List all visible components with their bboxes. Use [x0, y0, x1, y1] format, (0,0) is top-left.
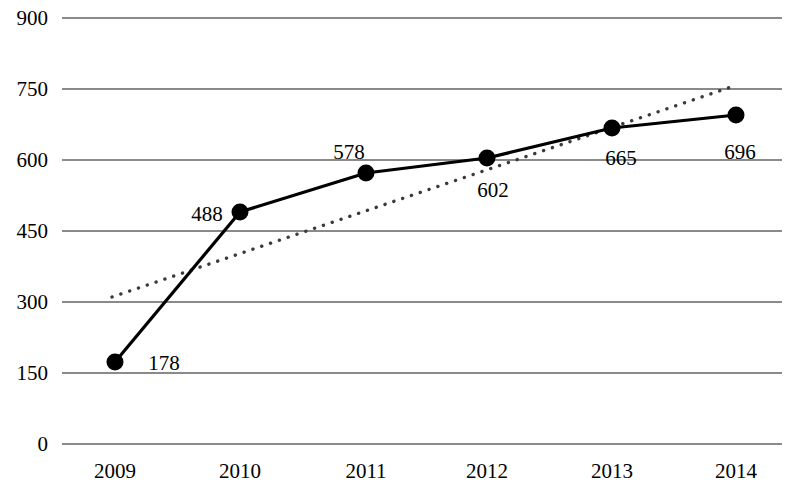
series-path — [115, 115, 736, 362]
y-axis-tick-150: 150 — [0, 363, 48, 384]
x-axis-tick-2010: 2010 — [219, 461, 261, 482]
trendline-dotted-path — [112, 85, 737, 297]
x-axis-tick-2014: 2014 — [715, 461, 757, 482]
data-point-marker[interactable] — [232, 204, 249, 221]
line-chart: 900 750 600 450 300 150 0 2009 2010 2011… — [0, 0, 791, 485]
data-label-2010: 488 — [191, 204, 223, 225]
data-label-2013: 665 — [605, 148, 637, 169]
data-point-marker[interactable] — [479, 150, 496, 167]
y-axis-tick-300: 300 — [0, 292, 48, 313]
data-point-marker[interactable] — [728, 107, 745, 124]
data-point-markers — [107, 107, 745, 371]
y-axis-tick-450: 450 — [0, 221, 48, 242]
x-axis-tick-2011: 2011 — [345, 461, 386, 482]
gridlines — [62, 18, 782, 444]
data-point-marker[interactable] — [358, 165, 375, 182]
data-label-2009: 178 — [148, 353, 180, 374]
data-point-marker[interactable] — [107, 354, 124, 371]
x-axis-tick-2013: 2013 — [591, 461, 633, 482]
data-label-2014: 696 — [724, 142, 756, 163]
y-axis-tick-900: 900 — [0, 8, 48, 29]
chart-plot-area — [0, 0, 791, 485]
y-axis-tick-750: 750 — [0, 79, 48, 100]
trendline — [112, 85, 737, 297]
y-axis-tick-600: 600 — [0, 150, 48, 171]
data-point-marker[interactable] — [604, 120, 621, 137]
x-axis-tick-2009: 2009 — [94, 461, 136, 482]
y-axis-tick-0: 0 — [0, 434, 48, 455]
x-axis-tick-2012: 2012 — [466, 461, 508, 482]
data-series-line — [115, 115, 736, 362]
data-label-2012: 602 — [477, 180, 509, 201]
data-label-2011: 578 — [333, 142, 365, 163]
